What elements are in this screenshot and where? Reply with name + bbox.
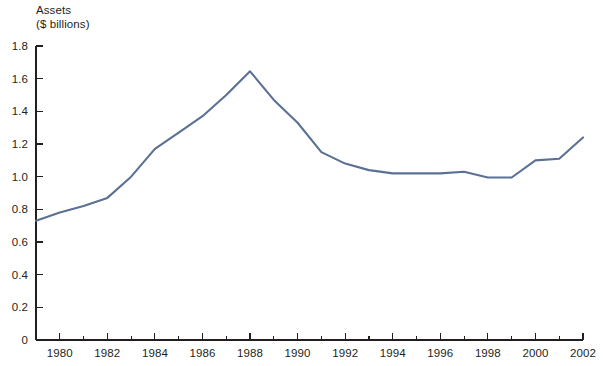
x-axis-tick-label: 1990 <box>285 347 311 359</box>
y-axis-tick-label: 0 <box>22 334 29 346</box>
x-axis-tick-label: 2000 <box>522 347 548 359</box>
x-axis: 1980198219841986198819901992199419961998… <box>36 333 596 359</box>
x-axis-tick-label: 1996 <box>427 347 453 359</box>
y-axis-tick-label: 1.2 <box>12 138 28 150</box>
chart-canvas: 00.20.40.60.81.01.21.41.61.8 19801982198… <box>0 0 603 366</box>
y-axis: 00.20.40.60.81.01.21.41.61.8 <box>12 40 43 346</box>
y-axis-tick-label: 0.2 <box>12 301 28 313</box>
x-axis-tick-label: 1994 <box>380 347 406 359</box>
x-axis-tick-label: 1988 <box>237 347 263 359</box>
y-axis-tick-label: 0.4 <box>12 269 29 281</box>
x-axis-tick-label: 1984 <box>142 347 168 359</box>
assets-line-chart: Assets ($ billions) 00.20.40.60.81.01.21… <box>0 0 603 366</box>
y-axis-tick-label: 1.0 <box>12 171 28 183</box>
y-axis-tick-label: 0.8 <box>12 203 28 215</box>
y-axis-tick-label: 1.4 <box>12 105 29 117</box>
data-series-group <box>36 71 583 220</box>
assets-series-line <box>36 71 583 220</box>
y-axis-tick-label: 1.6 <box>12 73 28 85</box>
x-axis-tick-label: 1982 <box>94 347 120 359</box>
x-axis-tick-label: 1992 <box>332 347 358 359</box>
x-axis-tick-label: 1998 <box>475 347 501 359</box>
x-axis-tick-label: 1986 <box>189 347 215 359</box>
y-axis-tick-label: 0.6 <box>12 236 28 248</box>
x-axis-tick-label: 1980 <box>47 347 73 359</box>
x-axis-tick-label: 2002 <box>570 347 596 359</box>
y-axis-tick-label: 1.8 <box>12 40 28 52</box>
